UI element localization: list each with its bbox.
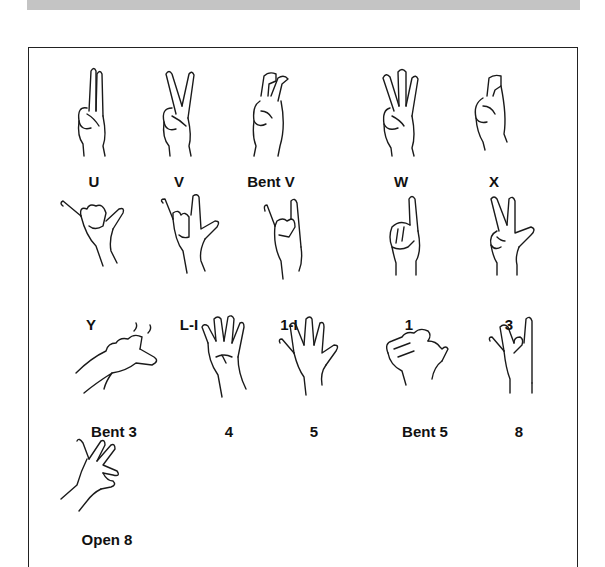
handshape-1: 1: [359, 191, 459, 311]
handshape-bent-v: Bent V: [221, 66, 321, 186]
handshape-5: 5: [264, 313, 364, 433]
hand-bent-3-icon: [56, 313, 166, 403]
hand-1-i-icon: [249, 191, 329, 281]
label-bent-5: Bent 5: [375, 423, 475, 440]
handshape-chart: U V Bent V W X: [28, 47, 578, 567]
hand-v-icon: [144, 66, 214, 156]
label-v: V: [129, 173, 229, 190]
hand-l-i-icon: [149, 191, 229, 281]
hand-x-icon: [459, 66, 529, 156]
label-8: 8: [469, 423, 569, 440]
handshape-x: X: [444, 66, 544, 186]
hand-bent-v-icon: [236, 66, 306, 156]
handshape-open-8: Open 8: [57, 431, 157, 551]
label-5: 5: [264, 423, 364, 440]
hand-bent-5-icon: [380, 313, 460, 403]
label-open-8: Open 8: [57, 531, 157, 548]
hand-4-icon: [194, 313, 264, 403]
handshape-1-i: 1-I: [239, 191, 339, 311]
handshape-3: 3: [459, 191, 559, 311]
hand-8-icon: [484, 313, 554, 403]
hand-1-icon: [374, 191, 444, 281]
label-x: X: [444, 173, 544, 190]
handshape-bent-5: Bent 5: [375, 313, 475, 433]
label-w: W: [351, 173, 451, 190]
hand-y-icon: [51, 191, 131, 281]
hand-w-icon: [366, 66, 436, 156]
handshape-l-i: L-I: [139, 191, 239, 311]
hand-5-icon: [274, 313, 354, 403]
hand-open-8-icon: [57, 431, 137, 521]
hand-3-icon: [469, 191, 549, 281]
handshape-bent-3: Bent 3: [64, 313, 164, 433]
header-band: [27, 0, 580, 10]
label-bent-v: Bent V: [221, 173, 321, 190]
handshape-v: V: [129, 66, 229, 186]
handshape-y: Y: [41, 191, 141, 311]
handshape-w: W: [351, 66, 451, 186]
handshape-8: 8: [469, 313, 569, 433]
hand-u-icon: [59, 66, 129, 156]
